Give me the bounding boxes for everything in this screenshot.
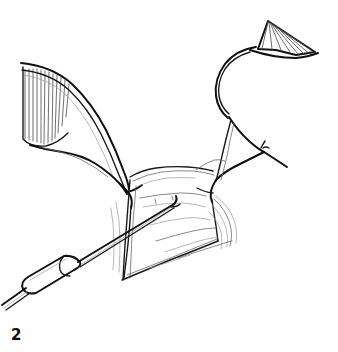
surgical-illustration <box>0 0 338 352</box>
figure-number-label: 2 <box>11 328 21 343</box>
figure-container: 2 <box>0 0 338 352</box>
